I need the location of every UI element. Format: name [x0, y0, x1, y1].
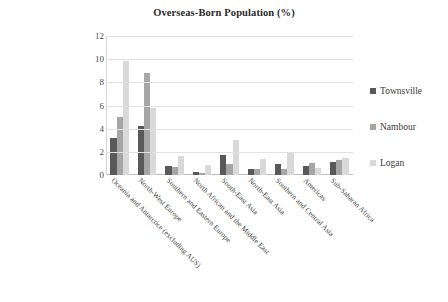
bar-logan[interactable]: [287, 153, 293, 175]
grid-line: [106, 82, 353, 83]
bar-logan[interactable]: [260, 159, 266, 175]
y-axis-tick-labels: 024681012: [84, 36, 104, 175]
y-axis-tick-label: 2: [100, 147, 105, 156]
chart-title: Overseas-Born Population (%): [0, 7, 448, 18]
legend-item-nambour[interactable]: Nambour: [370, 122, 448, 132]
grid-line: [106, 152, 353, 153]
bar-logan[interactable]: [315, 168, 321, 175]
grid-line: [106, 59, 353, 60]
legend-label: Logan: [380, 158, 404, 168]
y-axis-tick-label: 0: [100, 171, 105, 180]
bar-logan[interactable]: [342, 158, 348, 175]
bar-logan[interactable]: [233, 140, 239, 175]
bar-logan[interactable]: [178, 156, 184, 175]
grid-line: [106, 106, 353, 107]
chart-container: Overseas-Born Population (%) 024681012 O…: [0, 0, 448, 302]
legend-swatch-icon: [370, 124, 376, 130]
y-axis-tick-label: 6: [100, 101, 105, 110]
bar-logan[interactable]: [123, 61, 129, 175]
y-axis-tick-label: 8: [100, 78, 105, 87]
legend-item-logan[interactable]: Logan: [370, 158, 448, 168]
plot-area: [106, 36, 353, 175]
y-axis-tick-label: 10: [95, 55, 104, 64]
y-axis-tick-label: 4: [100, 124, 105, 133]
legend-label: Townsville: [380, 86, 422, 96]
grid-line: [106, 129, 353, 130]
legend-swatch-icon: [370, 88, 376, 94]
legend-swatch-icon: [370, 160, 376, 166]
bar-logan[interactable]: [150, 108, 156, 175]
y-axis-tick-label: 12: [95, 32, 104, 41]
chart-legend: TownsvilleNambourLogan: [370, 86, 448, 194]
legend-item-townsville[interactable]: Townsville: [370, 86, 448, 96]
grid-line: [106, 36, 353, 37]
bar-logan[interactable]: [205, 165, 211, 175]
x-axis-label: Americas: [301, 176, 328, 203]
legend-label: Nambour: [380, 122, 416, 132]
